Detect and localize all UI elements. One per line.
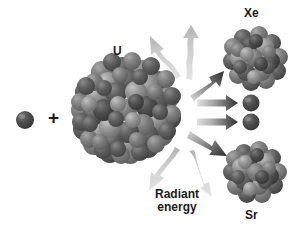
incident-neutron xyxy=(16,111,34,129)
uranium-nucleus xyxy=(71,52,181,164)
emitted-neutron-1 xyxy=(243,95,260,112)
radiant-energy-label: Radiant energy xyxy=(155,188,199,214)
radiant-arrow-up xyxy=(183,25,199,80)
arrow-to-neutron-1 xyxy=(197,95,238,111)
arrow-to-xenon xyxy=(190,71,224,101)
fission-diagram: U Xe Sr + Radiant energy xyxy=(0,0,300,235)
strontium-nucleus xyxy=(223,141,287,203)
arrow-to-neutron-2 xyxy=(197,114,238,130)
uranium-label: U xyxy=(113,45,122,58)
strontium-label: Sr xyxy=(245,209,258,222)
xenon-nucleus xyxy=(223,26,288,91)
fission-diagram-canvas xyxy=(0,0,300,235)
plus-sign: + xyxy=(48,108,59,129)
radiant-energy-line-1: Radiant xyxy=(155,188,199,201)
xenon-label: Xe xyxy=(244,7,259,20)
emitted-neutron-2 xyxy=(243,114,260,131)
radiant-energy-line-2: energy xyxy=(155,201,199,214)
